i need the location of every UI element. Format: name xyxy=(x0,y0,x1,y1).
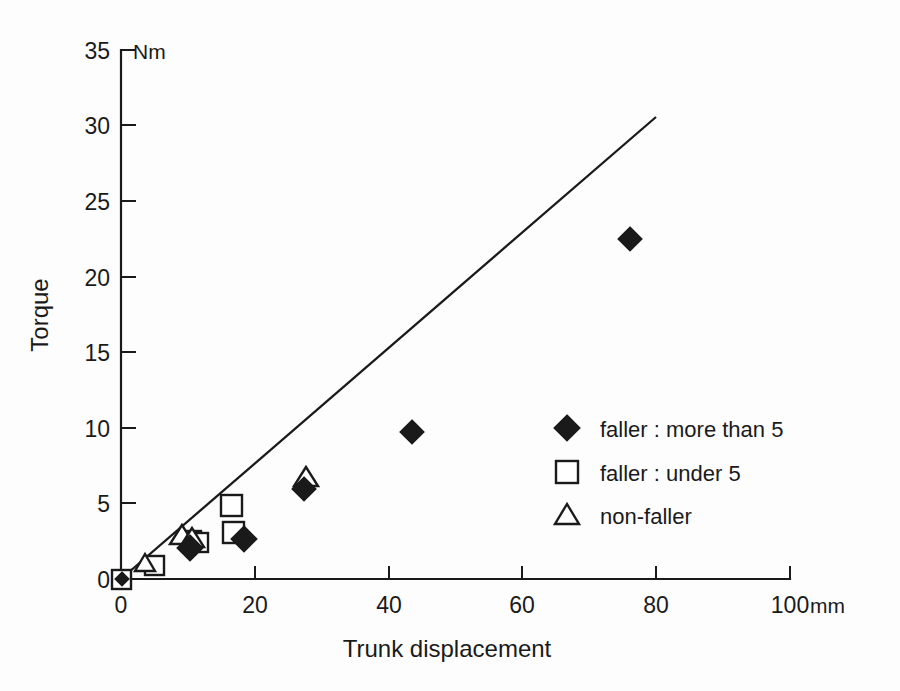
chart-figure: 35 30 25 20 15 10 5 0 Nm 0 20 40 60 80 1… xyxy=(0,0,900,691)
y-tick-label: 30 xyxy=(84,113,110,139)
data-point-square xyxy=(221,495,242,516)
scatter-plot: 35 30 25 20 15 10 5 0 Nm 0 20 40 60 80 1… xyxy=(0,0,900,691)
x-axis-title: Trunk displacement xyxy=(343,635,552,662)
x-tick-label: 20 xyxy=(242,592,268,618)
x-axis-tick-labels: 0 20 40 60 80 100 xyxy=(115,592,810,618)
data-point-diamond xyxy=(618,227,642,251)
x-axis-ticks xyxy=(255,566,790,579)
y-tick-label: 20 xyxy=(84,265,110,291)
y-tick-label: 5 xyxy=(97,491,110,517)
x-tick-label: 100 xyxy=(771,592,809,618)
y-tick-label: 35 xyxy=(84,38,110,64)
x-tick-label: 0 xyxy=(115,592,128,618)
y-tick-label: 0 xyxy=(97,567,110,593)
x-axis-unit-label: mm xyxy=(810,594,845,617)
y-axis-title: Torque xyxy=(26,278,53,351)
y-axis-unit-label: Nm xyxy=(133,40,166,63)
y-axis-tick-labels: 35 30 25 20 15 10 5 0 xyxy=(84,38,110,593)
legend-label-faller-under-5: faller : under 5 xyxy=(600,461,741,486)
legend-marker-open-triangle xyxy=(555,504,579,524)
y-tick-label: 15 xyxy=(84,340,110,366)
data-point-diamond xyxy=(400,420,424,444)
legend-label-faller-more-than-5: faller : more than 5 xyxy=(600,417,783,442)
legend-marker-filled-diamond xyxy=(554,415,580,441)
legend: faller : more than 5 faller : under 5 no… xyxy=(554,415,783,529)
x-tick-label: 40 xyxy=(376,592,402,618)
legend-label-non-faller: non-faller xyxy=(600,504,692,529)
y-tick-label: 25 xyxy=(84,189,110,215)
trend-line xyxy=(121,117,656,579)
legend-marker-open-square xyxy=(556,461,578,483)
y-tick-label: 10 xyxy=(84,416,110,442)
x-tick-label: 80 xyxy=(643,592,669,618)
x-tick-label: 60 xyxy=(509,592,535,618)
y-axis-ticks xyxy=(121,50,136,503)
